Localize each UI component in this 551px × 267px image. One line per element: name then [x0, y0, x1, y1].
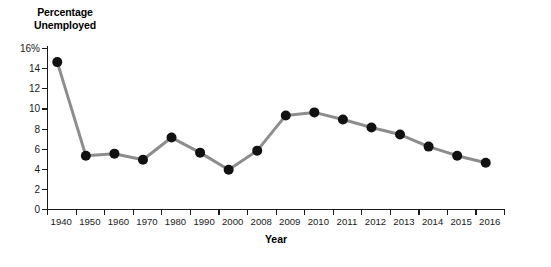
- y-tick-label: 8: [34, 123, 40, 134]
- x-tick: [218, 210, 219, 215]
- x-tick-label: 2011: [337, 216, 358, 227]
- x-tick-label: 2000: [222, 216, 243, 227]
- x-tick-label: 1970: [136, 216, 157, 227]
- x-tick-label: 2016: [479, 216, 500, 227]
- y-tick-label: 4: [34, 163, 40, 174]
- unemployment-line-chart: Percentage Unemployed 16%14121086420 194…: [0, 0, 551, 267]
- y-tick-label: 10: [29, 103, 40, 114]
- x-tick: [361, 210, 362, 215]
- x-tick-label: 2014: [422, 216, 443, 227]
- x-axis-title: Year: [47, 233, 505, 245]
- y-axis-title-line2: Unemployed: [14, 19, 116, 32]
- x-tick-label: 2010: [308, 216, 329, 227]
- x-tick-label: 1990: [193, 216, 214, 227]
- y-tick: [42, 129, 47, 130]
- y-tick: [42, 48, 47, 49]
- x-tick: [390, 210, 391, 215]
- y-tick: [42, 169, 47, 170]
- x-tick-label: 1950: [79, 216, 100, 227]
- x-tick: [104, 210, 105, 215]
- y-tick: [42, 68, 47, 69]
- y-tick-label: 0: [34, 204, 40, 215]
- x-tick-label: 2015: [450, 216, 471, 227]
- x-tick: [276, 210, 277, 215]
- x-tick: [76, 210, 77, 215]
- x-tick: [418, 210, 419, 215]
- x-tick-label: 1960: [108, 216, 129, 227]
- y-tick: [42, 189, 47, 190]
- y-tick: [42, 149, 47, 150]
- y-tick: [42, 88, 47, 89]
- x-tick: [475, 210, 476, 215]
- y-tick: [42, 108, 47, 109]
- x-tick: [133, 210, 134, 215]
- x-tick: [504, 210, 505, 215]
- x-tick: [247, 210, 248, 215]
- x-tick-label: 1980: [165, 216, 186, 227]
- plot-area: 16%14121086420: [47, 48, 504, 209]
- y-tick-label: 2: [34, 183, 40, 194]
- x-tick-label: 2013: [393, 216, 414, 227]
- x-tick: [161, 210, 162, 215]
- x-tick-label: 2009: [279, 216, 300, 227]
- x-tick: [333, 210, 334, 215]
- x-tick: [190, 210, 191, 215]
- y-axis-title: Percentage Unemployed: [14, 6, 116, 32]
- y-tick-label: 6: [34, 143, 40, 154]
- y-tick-label: 12: [29, 83, 40, 94]
- x-tick-label: 2008: [251, 216, 272, 227]
- x-tick: [304, 210, 305, 215]
- y-axis-title-line1: Percentage: [14, 6, 116, 19]
- x-tick-label: 1940: [51, 216, 72, 227]
- x-tick-label: 2012: [365, 216, 386, 227]
- y-tick-label: 16%: [20, 43, 40, 54]
- x-tick: [47, 210, 48, 215]
- y-tick-label: 14: [29, 63, 40, 74]
- x-tick: [447, 210, 448, 215]
